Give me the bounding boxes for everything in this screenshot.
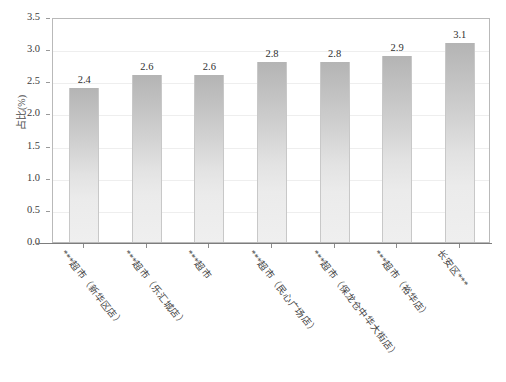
- y-tick-label: 3.0: [14, 44, 40, 55]
- x-tick-label: ***超市（民心广场店）: [247, 248, 319, 337]
- bar-value-label: 2.8: [265, 49, 278, 60]
- plot-area: 2.42.62.62.82.82.93.1: [52, 18, 490, 243]
- x-tick-mark: [83, 244, 84, 248]
- y-tick-label: 2.5: [14, 76, 40, 87]
- bar-group: 3.1: [428, 19, 491, 242]
- bars-layer: 2.42.62.62.82.82.93.1: [53, 19, 489, 242]
- bar-value-label: 2.6: [203, 62, 216, 73]
- x-tick-label: ***超市（乐汇城店）: [122, 248, 188, 329]
- y-tick-label: 2.0: [14, 108, 40, 119]
- y-tick-mark: [46, 82, 50, 83]
- bar-group: 2.9: [366, 19, 429, 242]
- y-tick-mark: [46, 18, 50, 19]
- bar-group: 2.4: [53, 19, 116, 242]
- x-tick-mark: [208, 244, 209, 248]
- bar[interactable]: [445, 43, 475, 242]
- y-tick-mark: [46, 147, 50, 148]
- bar-value-label: 2.6: [140, 62, 153, 73]
- bar-value-label: 2.9: [391, 43, 404, 54]
- bar-group: 2.8: [303, 19, 366, 242]
- x-tick-label: ***超市（裕华店）: [372, 248, 432, 321]
- x-tick-label: ***超市: [184, 248, 213, 281]
- bar-group: 2.6: [178, 19, 241, 242]
- y-tick-label: 1.0: [14, 173, 40, 184]
- y-tick-mark: [46, 179, 50, 180]
- bar-value-label: 3.1: [453, 30, 466, 41]
- y-tick-label: 1.5: [14, 141, 40, 152]
- y-tick-mark: [46, 50, 50, 51]
- y-tick-mark: [46, 114, 50, 115]
- bar[interactable]: [132, 75, 162, 242]
- x-tick-mark: [334, 244, 335, 248]
- bar-value-label: 2.4: [78, 75, 91, 86]
- bar-group: 2.6: [116, 19, 179, 242]
- bar-group: 2.8: [241, 19, 304, 242]
- bar[interactable]: [69, 88, 99, 242]
- bar[interactable]: [320, 62, 350, 242]
- bar-chart: 占比(%) 0.00.51.01.52.02.53.03.5 2.42.62.6…: [0, 0, 506, 382]
- x-tick-label: ***超市（新华区店）: [59, 248, 125, 329]
- x-tick-mark: [146, 244, 147, 248]
- y-tick-mark: [46, 211, 50, 212]
- y-tick-label: 0.5: [14, 205, 40, 216]
- x-tick-label: 长安区***: [434, 248, 469, 289]
- x-tick-mark: [396, 244, 397, 248]
- y-tick-label: 3.5: [14, 12, 40, 23]
- bar-value-label: 2.8: [328, 49, 341, 60]
- bar[interactable]: [382, 56, 412, 242]
- x-tick-mark: [271, 244, 272, 248]
- bar[interactable]: [194, 75, 224, 242]
- x-axis-line: [36, 243, 492, 244]
- bar[interactable]: [257, 62, 287, 242]
- x-tick-mark: [459, 244, 460, 248]
